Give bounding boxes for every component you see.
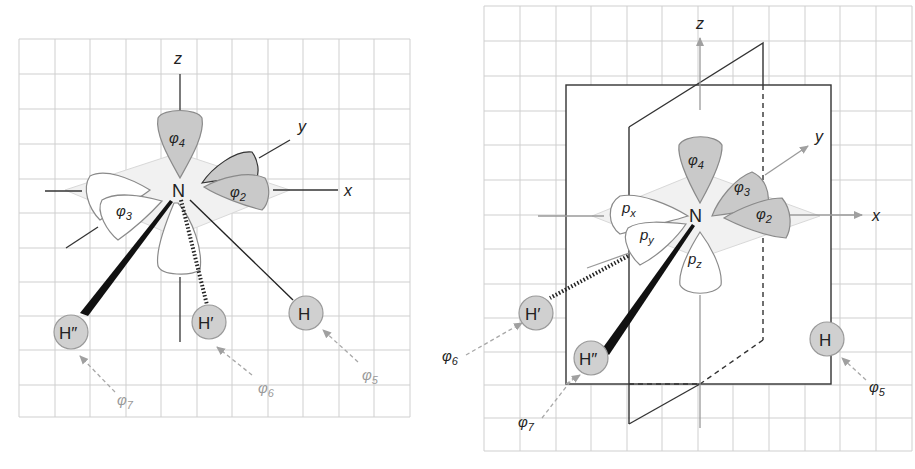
z-axis-label: z [695,15,704,32]
hydrogen-H: H [810,322,844,356]
bond-H [190,200,293,300]
arrow-phi5 [842,358,866,380]
nitrogen-atom: N [172,181,185,201]
nitrogen-atom: N [689,206,702,226]
svg-text:H′: H′ [198,314,213,333]
right-panel: z y x pz px py φ4 φ3 φ2 N H H [442,6,912,451]
arrow-phi6 [466,323,522,355]
hydrogen-H-double-prime: H″ [574,341,608,375]
svg-text:H: H [298,305,310,324]
y-axis-label: y [297,118,307,135]
phi6-label: φ6 [258,379,275,399]
y-axis-neg [66,227,98,248]
phi5-label: φ5 [869,378,886,398]
svg-text:H: H [819,331,831,350]
svg-text:H″: H″ [579,350,597,369]
x-axis-label: x [871,207,881,224]
left-panel: z y x φ3 φ4 φ2 N H H′ H″ [19,39,410,417]
left-grid [19,39,410,417]
x-axis-label: x [343,182,353,199]
svg-text:H″: H″ [59,324,77,343]
hydrogen-H-prime: H′ [192,305,226,339]
z-axis-label: z [173,50,182,67]
arrow-phi5 [323,330,358,362]
phi5-label: φ5 [362,366,379,386]
y-axis [259,140,290,158]
y-axis-label: y [814,128,824,145]
ammonia-orbital-diagram: z y x φ3 φ4 φ2 N H H′ H″ [0,0,915,469]
svg-text:H′: H′ [525,305,540,324]
arrow-phi7 [80,356,115,392]
phi6-label: φ6 [442,347,459,367]
arrow-phi6 [217,347,252,375]
hydrogen-H-double-prime: H″ [54,315,88,349]
hydrogen-H-prime: H′ [519,296,553,330]
hydrogen-H: H [289,296,323,330]
phi7-label: φ7 [518,413,535,433]
phi7-label: φ7 [117,391,134,411]
arrow-phi7-tail [542,378,573,418]
